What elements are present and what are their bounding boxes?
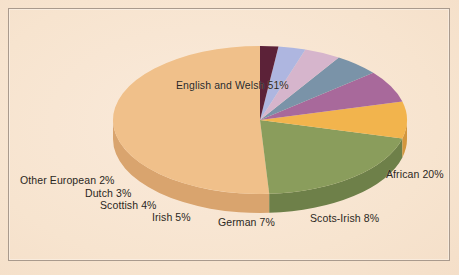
slice-label-scots-irish: Scots-Irish 8% <box>310 212 379 224</box>
pie-slices-group <box>113 46 407 213</box>
slice-label-dutch: Dutch 3% <box>85 187 131 199</box>
slice-label-german: German 7% <box>218 216 275 228</box>
slice-label-english-and-welsh: English and Welsh 51% <box>176 79 289 91</box>
pie-chart <box>0 0 459 275</box>
slice-label-scottish: Scottish 4% <box>100 199 157 211</box>
slice-label-other-european: Other European 2% <box>20 174 115 186</box>
slice-label-irish: Irish 5% <box>152 211 191 223</box>
pie-chart-svg <box>0 0 459 275</box>
slice-label-african: African 20% <box>386 168 444 180</box>
pie-top-faces <box>113 46 407 194</box>
chart-page: English and Welsh 51% African 20% Scots-… <box>0 0 459 275</box>
